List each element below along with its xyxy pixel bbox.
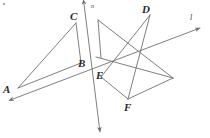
ray-line-l: [13, 28, 200, 99]
segment-A-B: [18, 63, 81, 88]
point-label-B: B: [78, 58, 85, 69]
rays-group: [13, 4, 200, 132]
segment-D-to-F: [128, 15, 150, 99]
point-label-D: D: [142, 4, 150, 15]
segment-F-to-apex: [128, 78, 173, 99]
segments-group: [18, 15, 173, 99]
segment-wing-top-down: [98, 20, 101, 58]
point-label-E: E: [96, 70, 103, 81]
segment-D-to-E: [101, 15, 150, 77]
point-label-A: A: [3, 84, 10, 95]
segment-E-to-F: [101, 77, 128, 99]
geometry-canvas: [0, 0, 210, 138]
line-label-l: l: [190, 14, 192, 22]
point-label-F: F: [124, 102, 131, 113]
geometry-figure: C D B E A F n l: [0, 0, 210, 138]
ray-line-n: [84, 4, 100, 132]
line-label-n: n: [91, 3, 94, 9]
corner-speck: [3, 3, 5, 5]
point-label-C: C: [70, 11, 77, 22]
